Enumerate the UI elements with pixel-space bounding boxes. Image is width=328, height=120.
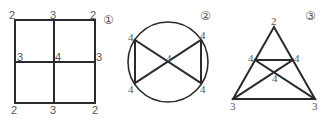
degree-label: 2 <box>9 9 15 21</box>
figure-2-circle: 4 4 4 4 4 ② <box>128 9 211 102</box>
degree-label: 4 <box>200 83 206 95</box>
figure-number-label: ② <box>200 9 211 23</box>
degree-label: 4 <box>55 51 61 63</box>
degree-label: 2 <box>271 15 277 27</box>
degree-label: 2 <box>92 104 98 116</box>
degree-label: 3 <box>312 100 318 112</box>
degree-label: 2 <box>90 9 96 21</box>
degree-label: 3 <box>50 9 56 21</box>
figure-1-grid: 2 3 2 3 4 3 2 3 2 ① <box>9 9 114 116</box>
degree-label: 2 <box>11 104 17 116</box>
degree-label: 4 <box>200 29 206 41</box>
figure-3-triangle: 2 4 4 4 3 3 ③ <box>230 9 318 112</box>
degree-label: 3 <box>96 51 102 63</box>
degree-label: 3 <box>17 51 23 63</box>
graph-figures: 2 3 2 3 4 3 2 3 2 ① 4 4 4 4 4 ② 2 4 4 4 … <box>0 0 328 120</box>
figure-number-label: ① <box>103 13 114 27</box>
figure-number-label: ③ <box>305 9 316 23</box>
degree-label: 4 <box>294 52 300 64</box>
degree-label: 4 <box>248 52 254 64</box>
degree-label: 4 <box>166 52 172 64</box>
outer-triangle <box>233 27 315 99</box>
degree-label: 4 <box>128 83 134 95</box>
degree-label: 3 <box>230 100 236 112</box>
degree-label: 4 <box>272 72 278 84</box>
degree-label: 3 <box>50 104 56 116</box>
degree-label: 4 <box>128 31 134 43</box>
